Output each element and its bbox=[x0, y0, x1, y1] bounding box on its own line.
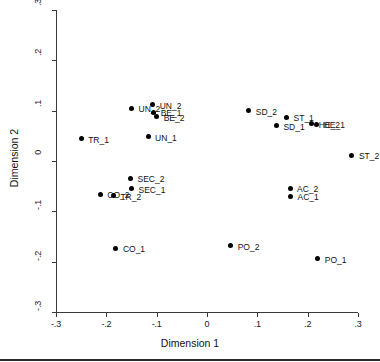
data-point bbox=[315, 256, 320, 261]
data-point bbox=[154, 114, 159, 119]
x-axis-tick bbox=[358, 313, 359, 317]
scatter-plot: -.3-.2-.10.1.2.3-.3-.2-.10.1.2.3 UN_2UN_… bbox=[0, 0, 380, 362]
x-axis-tick-label: .3 bbox=[343, 319, 373, 329]
data-point bbox=[129, 106, 134, 111]
data-point bbox=[284, 115, 289, 120]
y-axis-tick bbox=[52, 262, 56, 263]
data-point bbox=[228, 243, 233, 248]
data-point-label: PO_2 bbox=[238, 242, 260, 252]
y-axis-tick bbox=[52, 10, 56, 11]
y-axis-tick bbox=[52, 60, 56, 61]
y-axis-line bbox=[56, 10, 57, 312]
x-axis-tick-label: -.2 bbox=[91, 319, 121, 329]
x-axis-tick bbox=[56, 313, 57, 317]
data-point-label: SD_2 bbox=[256, 107, 277, 117]
data-point bbox=[314, 122, 319, 127]
data-point bbox=[146, 134, 151, 139]
x-axis-tick-label: -.3 bbox=[41, 319, 71, 329]
data-point bbox=[288, 194, 293, 199]
data-point bbox=[349, 153, 354, 158]
data-point-label: AC_1 bbox=[298, 192, 319, 202]
y-axis-tick-label: .3 bbox=[33, 0, 43, 19]
data-point-label: ST_2 bbox=[359, 151, 379, 161]
x-axis-tick-label: 0 bbox=[192, 319, 222, 329]
y-axis-tick bbox=[52, 111, 56, 112]
x-axis-tick bbox=[157, 313, 158, 317]
x-axis-tick bbox=[308, 313, 309, 317]
y-axis-tick-label: -.2 bbox=[33, 251, 43, 271]
data-point-label: TR_2 bbox=[120, 192, 141, 202]
data-point bbox=[246, 108, 251, 113]
data-point-label: PO_1 bbox=[325, 255, 347, 265]
data-point-label: HE_1 bbox=[324, 120, 345, 130]
y-axis-tick-label: 0 bbox=[33, 150, 43, 170]
data-point-label: SEC_1 bbox=[139, 185, 166, 195]
data-point bbox=[288, 186, 293, 191]
data-point-label: CO_1 bbox=[123, 244, 145, 254]
bottom-rule bbox=[0, 359, 380, 361]
y-axis-title: Dimension 2 bbox=[8, 113, 20, 203]
x-axis-tick-label: .1 bbox=[242, 319, 272, 329]
x-axis-tick bbox=[207, 313, 208, 317]
data-point-label: BE_2 bbox=[164, 113, 185, 123]
x-axis-tick-label: .2 bbox=[293, 319, 323, 329]
data-point-label: TR_1 bbox=[88, 135, 109, 145]
y-axis-tick-label: .2 bbox=[33, 49, 43, 69]
data-point-label: SD_1 bbox=[283, 122, 304, 132]
data-point-label: UN_1 bbox=[155, 133, 177, 143]
y-axis-tick-label: -.1 bbox=[33, 200, 43, 220]
data-point bbox=[113, 246, 118, 251]
x-axis-tick bbox=[106, 313, 107, 317]
x-axis-tick bbox=[257, 313, 258, 317]
data-point bbox=[274, 123, 279, 128]
y-axis-tick bbox=[52, 161, 56, 162]
y-axis-tick bbox=[52, 312, 56, 313]
y-axis-tick bbox=[52, 211, 56, 212]
data-point bbox=[79, 136, 84, 141]
data-point bbox=[98, 192, 103, 197]
y-axis-tick-label: .1 bbox=[33, 100, 43, 120]
y-axis-tick-label: -.3 bbox=[33, 301, 43, 321]
x-axis-title: Dimension 1 bbox=[0, 337, 380, 349]
data-point-label: SEC_2 bbox=[137, 174, 164, 184]
data-point bbox=[128, 176, 133, 181]
x-axis-tick-label: -.1 bbox=[142, 319, 172, 329]
